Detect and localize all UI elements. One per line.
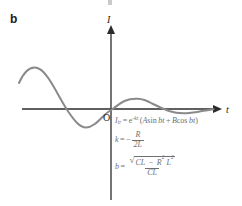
y-axis-label: I [106, 14, 111, 25]
formula-angular-frequency: b = √ CL − R2 L2 CL [115, 156, 239, 178]
damping-equals: = [120, 136, 125, 144]
damping-denominator: 2L [132, 140, 144, 150]
figure-panel-b: b I t O Itr = e-kt ( A sin bt + B cos bt… [0, 0, 242, 206]
damping-sign: − [126, 136, 131, 144]
frequency-denominator: CL [145, 168, 159, 178]
transient-current-subscript: tr [118, 120, 122, 126]
radicand-second-exponent: 2 [162, 154, 165, 160]
x-axis-label: t [226, 104, 229, 115]
exponential-power: kt [134, 116, 138, 122]
radicand-first-term: CL [135, 158, 145, 167]
damping-numerator: R [133, 131, 142, 140]
damping-symbol: k [115, 136, 119, 144]
frequency-fraction: √ CL − R2 L2 CL [128, 156, 177, 178]
transient-current-equals: = [123, 117, 128, 125]
frequency-numerator: √ CL − R2 L2 [128, 156, 177, 168]
radicand: CL − R2 L2 [134, 156, 174, 168]
y-axis-arrowhead [107, 25, 115, 34]
sine-function: sin [147, 117, 156, 125]
frequency-symbol: b [115, 163, 119, 171]
radicand-second-base: R [157, 158, 162, 167]
radicand-minus: − [149, 158, 154, 167]
formula-block: Itr = e-kt ( A sin bt + B cos bt ) k = −… [115, 117, 239, 184]
formula-damping-constant: k = − R 2L [115, 131, 239, 150]
frequency-equals: = [121, 163, 126, 171]
plus-operator: + [166, 117, 171, 125]
damping-fraction: R 2L [132, 131, 144, 150]
close-paren: ) [195, 117, 198, 125]
square-root-group: √ CL − R2 L2 [130, 156, 175, 168]
origin-label: O [103, 112, 110, 123]
sine-argument: bt [158, 117, 164, 125]
formula-transient-current: Itr = e-kt ( A sin bt + B cos bt ) [115, 117, 239, 125]
radicand-third-exponent: 2 [171, 154, 174, 160]
cosine-function: cos [177, 117, 188, 125]
